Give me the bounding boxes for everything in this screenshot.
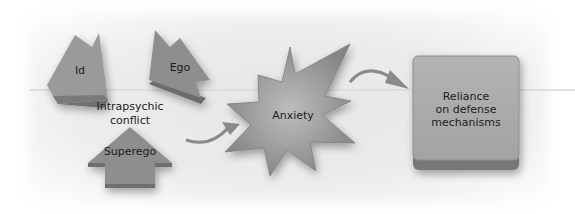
id-label: Id <box>70 64 90 77</box>
conflict-label-line1: Intrapsychic <box>95 100 165 113</box>
anxiety-label: Anxiety <box>266 109 320 122</box>
defense-label-line2: on defense <box>420 103 512 116</box>
ego-label: Ego <box>166 61 194 74</box>
conflict-label-line2: conflict <box>95 114 165 127</box>
diagram-canvas: Id Ego Superego Intrapsychic conflict An… <box>0 0 575 214</box>
arrow-conflict-to-anxiety <box>186 122 240 142</box>
defense-label-line1: Reliance <box>420 90 512 103</box>
defense-label-line3: mechanisms <box>420 116 512 129</box>
arrow-anxiety-to-defense <box>350 70 409 89</box>
superego-label: Superego <box>103 145 157 158</box>
